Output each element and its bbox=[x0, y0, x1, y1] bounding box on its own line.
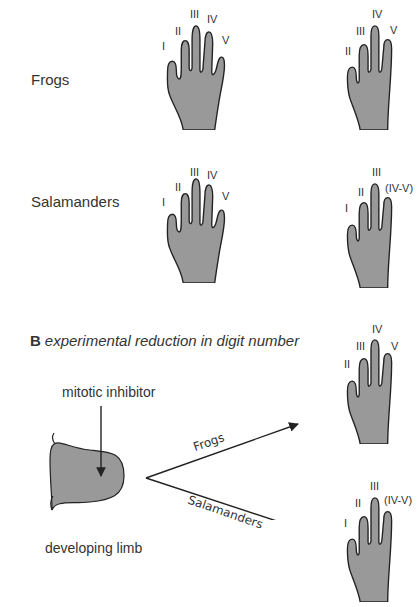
experiment-diagram bbox=[0, 400, 320, 520]
digit-label: I bbox=[162, 196, 165, 208]
treatment-label: mitotic inhibitor bbox=[62, 384, 155, 400]
row-label-salamanders: Salamanders bbox=[31, 193, 119, 210]
digit-label: I bbox=[344, 517, 347, 529]
limb-label: developing limb bbox=[45, 540, 142, 556]
experiment-salamander-hand bbox=[346, 494, 396, 602]
digit-label: II bbox=[345, 45, 351, 57]
digit-label: III bbox=[356, 25, 365, 37]
frog-normal-hand bbox=[165, 22, 229, 130]
digit-label: V bbox=[222, 190, 229, 202]
digit-label: III bbox=[190, 8, 199, 20]
digit-label: IV bbox=[207, 13, 217, 25]
hand-four-digits-icon bbox=[346, 180, 396, 288]
hand-four-digits-icon bbox=[346, 22, 396, 130]
digit-label: III bbox=[372, 166, 381, 178]
digit-label: V bbox=[391, 340, 398, 352]
section-title: experimental reduction in digit number bbox=[45, 332, 299, 349]
digit-label: IV bbox=[372, 8, 382, 20]
hand-four-digits-icon bbox=[346, 494, 396, 602]
section-letter: B bbox=[30, 332, 41, 349]
salamander-reduced-hand bbox=[346, 180, 396, 288]
digit-label: III bbox=[356, 340, 365, 352]
digit-label: IV bbox=[207, 169, 217, 181]
digit-label: II bbox=[344, 358, 350, 370]
digit-label: (IV-V) bbox=[384, 494, 412, 506]
experiment-frog-hand bbox=[346, 336, 396, 444]
section-b-heading: Bexperimental reduction in digit number bbox=[30, 332, 299, 349]
digit-label: IV bbox=[372, 323, 382, 335]
digit-label: II bbox=[175, 181, 181, 193]
hand-five-digits-icon bbox=[165, 22, 229, 130]
digit-label: I bbox=[162, 40, 165, 52]
digit-label: II bbox=[355, 497, 361, 509]
developing-limb-shape bbox=[50, 443, 124, 510]
digit-label: III bbox=[190, 166, 199, 178]
hand-four-digits-icon bbox=[346, 336, 396, 444]
digit-label: III bbox=[370, 480, 379, 492]
digit-label: (IV-V) bbox=[385, 182, 413, 194]
frog-reduced-hand bbox=[346, 22, 396, 130]
digit-label: V bbox=[222, 34, 229, 46]
digit-label: II bbox=[175, 25, 181, 37]
row-label-frogs: Frogs bbox=[31, 71, 69, 88]
digit-label: II bbox=[358, 186, 364, 198]
digit-label: I bbox=[345, 202, 348, 214]
digit-label: V bbox=[390, 24, 397, 36]
